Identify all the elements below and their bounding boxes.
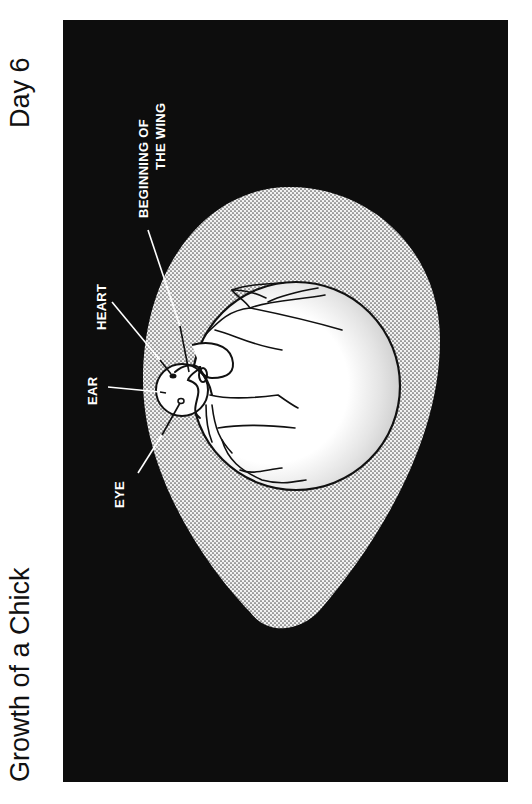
diagram-panel: BEGINNING OF THE WING HEART EAR EYE: [63, 20, 508, 782]
label-wing-line1: BEGINNING OF: [137, 119, 151, 218]
label-heart: HEART: [95, 284, 109, 330]
label-eye: EYE: [113, 481, 127, 508]
label-ear: EAR: [86, 377, 100, 405]
yolk-sac: [192, 282, 400, 490]
page-title: Growth of a Chick: [5, 567, 35, 782]
egg-diagram: [63, 20, 508, 782]
label-wing-line2: THE WING: [154, 103, 168, 170]
eye-dot: [178, 399, 184, 404]
day-label: Day 6: [5, 57, 35, 128]
